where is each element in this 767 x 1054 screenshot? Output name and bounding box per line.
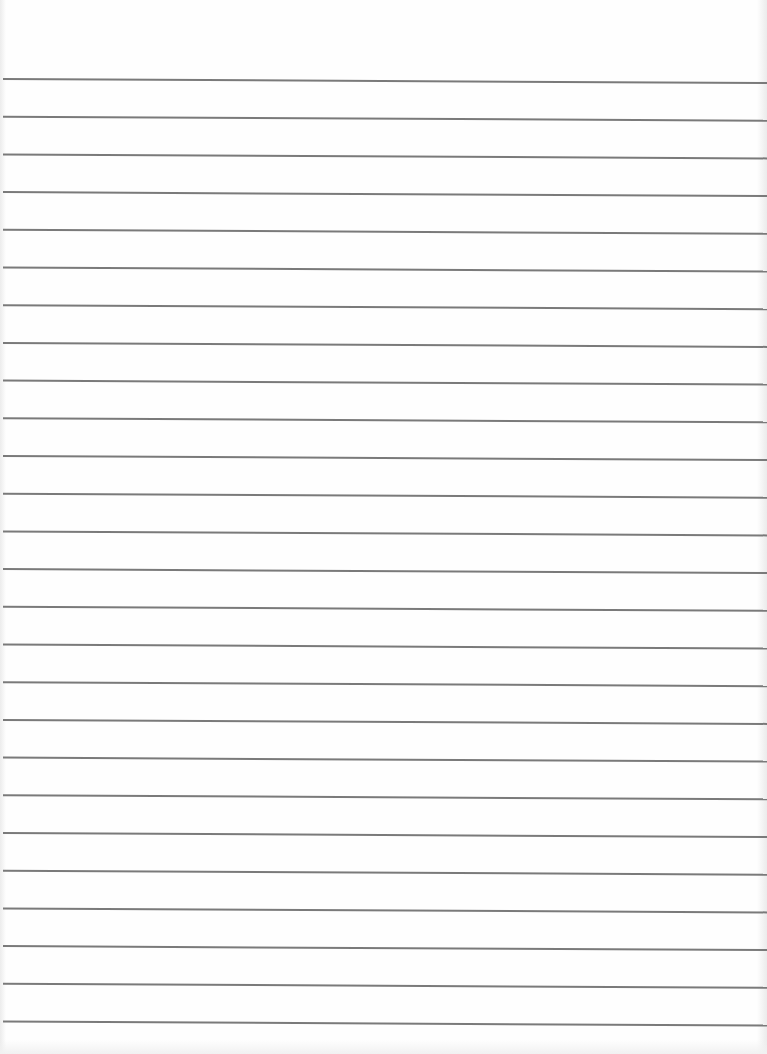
ruled-line — [3, 720, 767, 724]
ruled-line — [3, 230, 767, 234]
ruled-line — [3, 908, 767, 912]
ruled-line — [3, 758, 767, 762]
lined-paper-page — [0, 0, 767, 1054]
ruled-line — [3, 268, 767, 272]
ruled-line — [3, 343, 767, 347]
ruled-line — [3, 645, 767, 649]
ruled-line — [3, 871, 767, 875]
ruled-line — [3, 154, 767, 158]
ruled-line — [3, 531, 767, 535]
ruled-line — [3, 1022, 767, 1026]
ruled-line — [3, 494, 767, 498]
ruled-line — [3, 569, 767, 573]
ruled-line — [3, 305, 767, 309]
ruled-line — [3, 192, 767, 196]
ruled-lines — [0, 0, 767, 1054]
ruled-line — [3, 381, 767, 385]
ruled-line — [3, 946, 767, 950]
ruled-line — [3, 79, 767, 83]
ruled-line — [3, 833, 767, 837]
ruled-line — [3, 607, 767, 611]
ruled-line — [3, 795, 767, 799]
ruled-line — [3, 682, 767, 686]
ruled-line — [3, 456, 767, 460]
ruled-line — [3, 117, 767, 121]
ruled-line — [3, 418, 767, 422]
ruled-line — [3, 984, 767, 988]
